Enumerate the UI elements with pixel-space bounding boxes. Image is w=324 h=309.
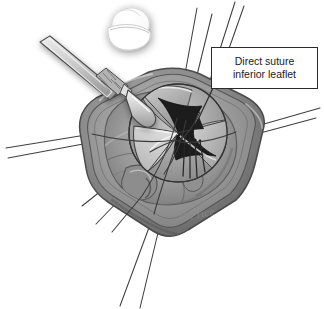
callout-label-box: Direct suture inferior leaflet bbox=[211, 47, 318, 89]
aortic-valve bbox=[129, 84, 228, 182]
surgical-illustration-figure: Direct suture inferior leaflet ©2008 G.P… bbox=[0, 0, 324, 309]
callout-label-line2: inferior leaflet bbox=[233, 68, 296, 81]
callout-label-line1: Direct suture bbox=[235, 55, 295, 68]
